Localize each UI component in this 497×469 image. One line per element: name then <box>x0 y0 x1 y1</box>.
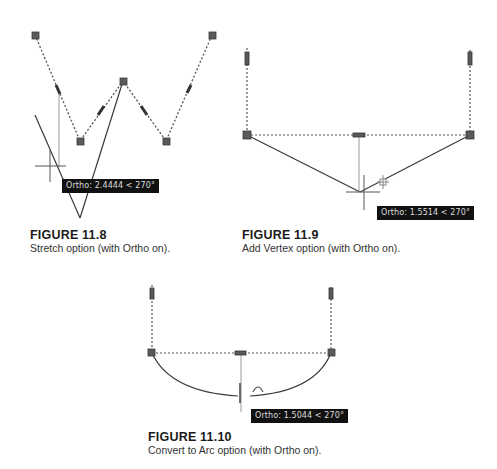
figure-11-10-drawing <box>130 270 360 420</box>
crosshair-cursor-icon <box>346 175 380 210</box>
midpoint-grip <box>468 52 472 65</box>
midpoint-grip <box>141 106 147 115</box>
figure-11-8-caption: FIGURE 11.8 Stretch option (with Ortho o… <box>30 228 170 255</box>
figure-caption-text: Stretch option (with Ortho on). <box>30 242 170 255</box>
vertex-grip <box>328 349 335 356</box>
midpoint-grip <box>98 106 104 115</box>
midpoint-grip <box>56 85 60 94</box>
stretched-segment-right <box>80 81 123 218</box>
ortho-tooltip: Ortho: 1.5514 < 270° <box>377 206 474 220</box>
figure-title: FIGURE 11.8 <box>30 228 170 242</box>
new-segment-left <box>247 135 360 192</box>
figure-11-10: Ortho: 1.5044 < 270° <box>130 270 360 420</box>
midpoint-grip <box>235 351 246 355</box>
dashed-polyline <box>35 35 212 141</box>
figure-caption-text: Add Vertex option (with Ortho on). <box>242 242 400 255</box>
midpoint-grip <box>353 133 365 137</box>
vertex-grip <box>163 138 170 145</box>
figure-11-8: Ortho: 2.4444 < 270° <box>0 0 240 215</box>
midpoint-grip <box>245 52 249 65</box>
midpoint-grip <box>187 85 191 93</box>
arc-left <box>152 353 238 396</box>
figure-11-10-caption: FIGURE 11.10 Convert to Arc option (with… <box>148 430 321 457</box>
vertex-grip <box>120 78 127 85</box>
figure-title: FIGURE 11.9 <box>242 228 400 242</box>
figure-11-9-caption: FIGURE 11.9 Add Vertex option (with Orth… <box>242 228 400 255</box>
arc-cursor-icon <box>253 387 263 392</box>
new-segment-right <box>360 135 470 192</box>
midpoint-grips <box>56 85 191 115</box>
figure-11-9: Ortho: 1.5514 < 270° <box>230 30 497 215</box>
vertex-grip <box>466 131 474 139</box>
midpoint-grips <box>245 52 472 137</box>
vertex-grip <box>148 349 155 356</box>
figure-11-9-drawing <box>230 30 497 215</box>
midpoint-grip <box>150 288 154 299</box>
vertex-grip <box>243 131 251 139</box>
midpoint-grip <box>329 288 333 299</box>
vertex-grip <box>209 32 216 39</box>
vertex-grip <box>32 32 39 39</box>
figure-title: FIGURE 11.10 <box>148 430 321 444</box>
figure-caption-text: Convert to Arc option (with Ortho on). <box>148 444 321 457</box>
midpoint-grips <box>150 288 333 355</box>
crosshair-cursor-icon <box>35 150 66 182</box>
add-vertex-cursor-icon <box>377 175 389 189</box>
vertex-grip <box>77 138 84 145</box>
ortho-tooltip: Ortho: 2.4444 < 270° <box>62 179 159 193</box>
ortho-tooltip: Ortho: 1.5044 < 270° <box>251 409 348 423</box>
